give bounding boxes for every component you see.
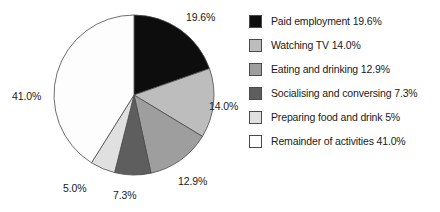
legend-item: Watching TV 14.0% bbox=[249, 33, 439, 57]
pie-plot-area: 19.6% 14.0% 12.9% 7.3% 5.0% 41.0% bbox=[0, 0, 240, 212]
legend-item: Eating and drinking 12.9% bbox=[249, 57, 439, 81]
legend-swatch-icon bbox=[249, 39, 262, 52]
slice-label-paid-employment: 19.6% bbox=[186, 12, 215, 23]
slice-label-remainder-of-activities: 41.0% bbox=[12, 91, 41, 102]
legend-item-label: Watching TV 14.0% bbox=[271, 40, 361, 51]
legend-swatch-icon bbox=[249, 87, 262, 100]
slice-label-eating-and-drinking: 12.9% bbox=[178, 176, 207, 187]
legend-swatch-icon bbox=[249, 111, 262, 124]
slice-label-preparing-food-and-drink: 5.0% bbox=[63, 183, 87, 194]
legend-swatch-icon bbox=[249, 15, 262, 28]
pie-chart-figure: 19.6% 14.0% 12.9% 7.3% 5.0% 41.0% Paid e… bbox=[0, 0, 440, 212]
legend-item-label: Preparing food and drink 5% bbox=[271, 112, 400, 123]
legend-item: Paid employment 19.6% bbox=[249, 9, 439, 33]
slice-label-socialising-and-conversing: 7.3% bbox=[113, 190, 137, 201]
legend-item-label: Eating and drinking 12.9% bbox=[271, 64, 390, 75]
chart-legend: Paid employment 19.6% Watching TV 14.0% … bbox=[249, 9, 439, 153]
legend-item-label: Socialising and conversing 7.3% bbox=[271, 88, 418, 99]
legend-item-label: Remainder of activities 41.0% bbox=[271, 136, 406, 147]
legend-swatch-icon bbox=[249, 135, 262, 148]
slice-label-watching-tv: 14.0% bbox=[209, 101, 238, 112]
legend-item: Remainder of activities 41.0% bbox=[249, 129, 439, 153]
legend-swatch-icon bbox=[249, 63, 262, 76]
legend-item-label: Paid employment 19.6% bbox=[271, 16, 382, 27]
legend-item: Socialising and conversing 7.3% bbox=[249, 81, 439, 105]
legend-item: Preparing food and drink 5% bbox=[249, 105, 439, 129]
